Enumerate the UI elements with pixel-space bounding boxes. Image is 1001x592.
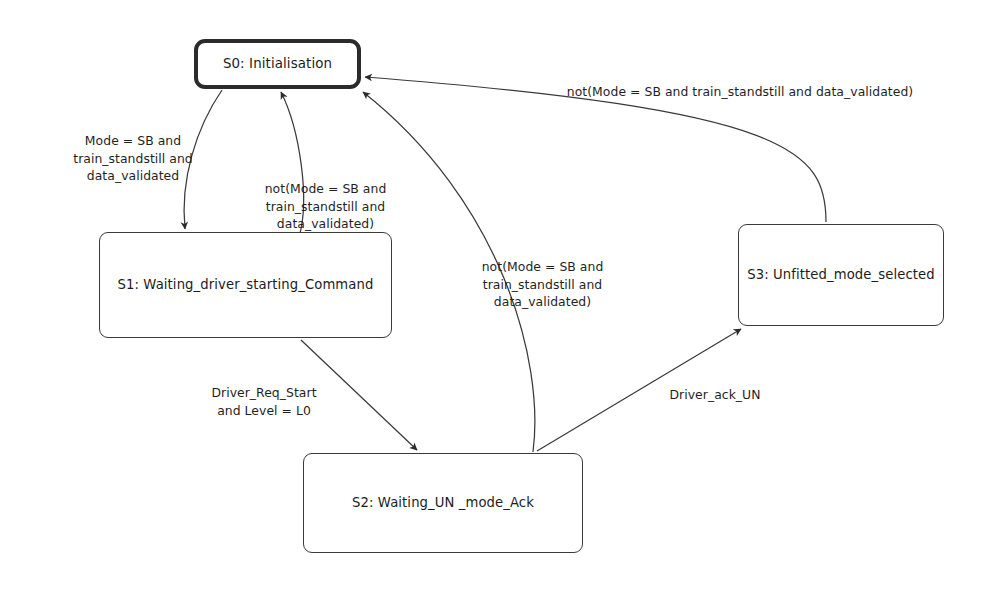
transition-label-s1-to-s0: not(Mode = SB and train_standstill and d… — [238, 180, 413, 233]
transition-label-s3-to-s0: not(Mode = SB and train_standstill and d… — [545, 83, 935, 101]
state-label-s3: S3: Unfitted_mode_selected — [747, 267, 934, 284]
transition-label-s2-to-s0: not(Mode = SB and train_standstill and d… — [455, 258, 630, 311]
state-node-s3[interactable]: S3: Unfitted_mode_selected — [738, 224, 944, 326]
state-node-s0[interactable]: S0: Initialisation — [194, 39, 361, 89]
state-label-s2: S2: Waiting_UN _mode_Ack — [352, 495, 534, 512]
transition-label-s0-to-s1: Mode = SB and train_standstill and data_… — [48, 132, 218, 185]
state-machine-diagram: S0: Initialisation S1: Waiting_driver_st… — [0, 0, 1001, 592]
state-label-s0: S0: Initialisation — [223, 56, 332, 73]
transition-label-s2-to-s3: Driver_ack_UN — [650, 386, 780, 404]
state-node-s2[interactable]: S2: Waiting_UN _mode_Ack — [303, 453, 583, 553]
state-label-s1: S1: Waiting_driver_starting_Command — [118, 277, 374, 294]
state-node-s1[interactable]: S1: Waiting_driver_starting_Command — [99, 232, 392, 338]
transition-label-s1-to-s2: Driver_Req_Start and Level = L0 — [190, 384, 338, 419]
